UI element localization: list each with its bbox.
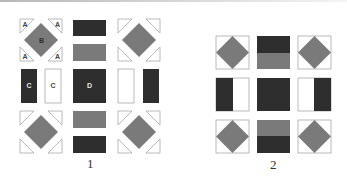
label-c: C [27,82,32,89]
half-dark [314,78,331,111]
triangle-top-right [48,111,62,125]
diamond [24,115,58,149]
triangle-top-left [20,111,34,125]
quilt-block-diagram: A A A A B C C D [0,0,347,180]
triangle-bottom-right [48,139,62,153]
panel-1: A A A A B C C D [20,19,160,153]
block-split-left [216,78,249,111]
triangle-bottom-left [20,139,34,153]
rect-gray-top [73,44,106,61]
rect-dark-right [143,69,159,103]
triangle-top-right [146,111,160,125]
block-split-right [298,78,331,111]
block-diamond-bottom-right [298,120,331,153]
diamond [122,115,156,149]
block-diamond-bottom-left [216,120,249,153]
panel-2 [216,36,331,153]
corner-block-bottom-right [118,111,160,153]
half-gray [257,53,290,69]
block-diamond-top-right [298,36,331,69]
rect-dark-bottom [73,136,106,153]
block-split-top [257,36,290,69]
triangle-top-left [118,19,132,33]
label-c: C [51,82,56,89]
label-d: D [87,82,92,89]
rect-gray-bottom [73,111,106,128]
half-gray [257,120,290,136]
corner-block-top-right [118,19,160,61]
triangle-bottom-left [118,139,132,153]
label-a: A [23,21,28,28]
diamond [122,23,156,57]
rect-dark-top [73,20,106,36]
label-a: A [55,53,60,60]
corner-block-bottom-left [20,111,62,153]
triangle-top-left [118,111,132,125]
triangle-bottom-left [118,47,132,61]
label-a: A [23,53,28,60]
label-a: A [55,21,60,28]
triangle-bottom-right [146,139,160,153]
caption-panel-1: 1 [87,156,94,172]
triangle-bottom-right [146,47,160,61]
half-dark [216,78,233,111]
triangle-top-right [146,19,160,33]
half-dark [257,36,290,53]
block-split-bottom [257,120,290,153]
rect-white-right [118,69,134,103]
block-diamond-top-left [216,36,249,69]
caption-panel-2: 2 [270,157,277,173]
corner-block-top-left: A A A A B [20,19,62,61]
label-b: B [39,37,44,44]
half-dark [257,136,290,153]
center-square [257,78,290,111]
